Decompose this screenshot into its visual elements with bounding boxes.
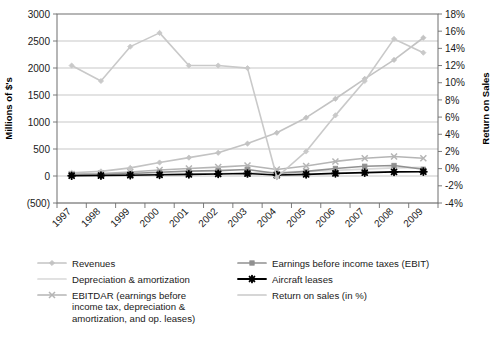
y-axis-tick-label: 2000 bbox=[28, 63, 51, 74]
y2-axis-tick-label: 4% bbox=[445, 129, 460, 140]
legend-label: Aircraft leases bbox=[272, 274, 333, 285]
y-axis-tick-label: 0 bbox=[44, 171, 50, 182]
y2-axis-tick-label: -2% bbox=[445, 180, 463, 191]
y2-axis-tick-label: 16% bbox=[445, 26, 465, 37]
y-axis-tick-label: (500) bbox=[27, 198, 50, 209]
legend-marker-square bbox=[238, 261, 266, 265]
legend-label: EBITDAR (earnings before bbox=[72, 290, 186, 301]
y2-axis-tick-label: -4% bbox=[445, 198, 463, 209]
y2-axis-tick-label: 8% bbox=[445, 95, 460, 106]
legend-label: Return on sales (in %) bbox=[272, 290, 367, 301]
legend-item: Aircraft leases bbox=[238, 274, 333, 285]
legend-item: Return on sales (in %) bbox=[238, 290, 367, 301]
data-point-diamond bbox=[186, 155, 191, 160]
legend-item: Earnings before income taxes (EBIT) bbox=[238, 258, 429, 269]
data-point-star bbox=[127, 172, 134, 179]
data-point-square bbox=[250, 261, 254, 265]
chart-container: 300025002000150010005000(500)18%16%14%12… bbox=[0, 0, 500, 337]
x-axis-tick-label: 2002 bbox=[196, 205, 220, 229]
x-axis-tick-label: 2001 bbox=[167, 205, 191, 229]
x-axis-tick-label: 2005 bbox=[284, 205, 308, 229]
data-point-star bbox=[391, 168, 398, 175]
y2-axis-tick-label: 2% bbox=[445, 146, 460, 157]
legend-marker-cross bbox=[38, 292, 66, 298]
y-axis-tick-label: 1500 bbox=[28, 90, 51, 101]
y-axis-tick-label: 1000 bbox=[28, 117, 51, 128]
data-point-star bbox=[303, 171, 310, 178]
data-point-diamond bbox=[245, 141, 250, 146]
x-axis-tick-label: 2006 bbox=[313, 205, 337, 229]
data-point-square bbox=[363, 164, 367, 168]
y-axis-title: Millions of $'s bbox=[3, 77, 14, 139]
y2-axis-tick-label: 12% bbox=[445, 60, 465, 71]
legend-item: Depreciation & amortization bbox=[38, 274, 190, 285]
data-point-diamond bbox=[245, 66, 250, 71]
x-axis-tick-label: 2009 bbox=[401, 205, 425, 229]
y2-axis-title: Return on Sales bbox=[480, 72, 491, 144]
legend-label: Depreciation & amortization bbox=[72, 274, 190, 285]
legend-item: Revenues bbox=[38, 258, 115, 269]
data-point-star bbox=[361, 169, 368, 176]
y2-axis-tick-label: 0% bbox=[445, 163, 460, 174]
y2-axis-tick-label: 14% bbox=[445, 43, 465, 54]
y-axis-tick-label: 3000 bbox=[28, 9, 51, 20]
data-point-square bbox=[392, 163, 396, 167]
x-axis-tick-label: 2008 bbox=[372, 205, 396, 229]
x-axis-tick-label: 1997 bbox=[50, 205, 74, 229]
data-point-diamond bbox=[216, 63, 221, 68]
data-point-diamond bbox=[216, 150, 221, 155]
data-point-star bbox=[420, 168, 427, 175]
data-point-star bbox=[332, 170, 339, 177]
y-axis-tick-label: 2500 bbox=[28, 36, 51, 47]
legend-label: Earnings before income taxes (EBIT) bbox=[272, 258, 429, 269]
data-point-diamond bbox=[421, 50, 426, 55]
data-point-star bbox=[215, 171, 222, 178]
x-axis-tick-label: 2000 bbox=[137, 205, 161, 229]
dual-axis-line-chart: 300025002000150010005000(500)18%16%14%12… bbox=[0, 0, 500, 337]
data-point-star bbox=[185, 171, 192, 178]
x-axis-tick-label: 2007 bbox=[343, 205, 367, 229]
series-line bbox=[72, 33, 424, 177]
data-point-diamond bbox=[157, 160, 162, 165]
legend-label: amortization, and op. leases) bbox=[72, 313, 195, 324]
data-point-star bbox=[249, 276, 256, 283]
x-axis-tick-label: 2004 bbox=[255, 205, 279, 229]
y2-axis-tick-label: 6% bbox=[445, 112, 460, 123]
legend-item: EBITDAR (earnings beforeincome tax, depr… bbox=[38, 290, 195, 324]
data-point-diamond bbox=[49, 260, 54, 265]
y-axis-tick-label: 500 bbox=[33, 144, 50, 155]
data-point-star bbox=[244, 170, 251, 177]
series-line bbox=[72, 38, 424, 173]
data-point-star bbox=[98, 172, 105, 179]
data-point-star bbox=[156, 171, 163, 178]
y2-axis-tick-label: 18% bbox=[445, 9, 465, 20]
x-axis-tick-label: 1999 bbox=[108, 205, 132, 229]
x-axis-tick-label: 1998 bbox=[79, 205, 103, 229]
legend-label: Revenues bbox=[72, 258, 115, 269]
y2-axis-tick-label: 10% bbox=[445, 77, 465, 88]
legend-marker-diamond bbox=[38, 260, 66, 265]
legend-marker-star bbox=[238, 276, 266, 283]
x-axis-tick-label: 2003 bbox=[225, 205, 249, 229]
legend-label: income tax, depreciation & bbox=[72, 301, 186, 312]
data-point-star bbox=[68, 172, 75, 179]
